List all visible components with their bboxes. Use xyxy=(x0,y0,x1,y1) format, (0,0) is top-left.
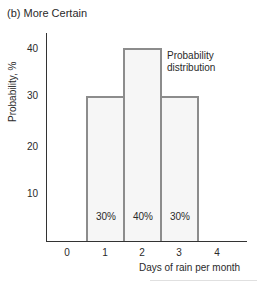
bar-label-2: 40% xyxy=(124,211,162,222)
x-axis xyxy=(46,241,247,242)
y-tick-40: 40 xyxy=(18,43,38,54)
y-axis xyxy=(46,33,47,242)
annotation-line-1: Probability xyxy=(167,50,215,62)
chart-title: (b) More Certain xyxy=(7,7,87,19)
bar-label-1: 30% xyxy=(87,211,125,222)
bottom-divider xyxy=(150,280,257,281)
y-tick-20: 20 xyxy=(18,141,38,152)
y-tick-30: 30 xyxy=(18,90,38,101)
x-tick-0: 0 xyxy=(57,247,77,258)
y-axis-label: Probability, % xyxy=(7,62,18,122)
annotation-line-2: distribution xyxy=(167,62,215,74)
x-tick-3: 3 xyxy=(169,247,189,258)
x-tick-4: 4 xyxy=(207,247,227,258)
x-axis-label: Days of rain per month xyxy=(139,262,240,273)
bar-label-3: 30% xyxy=(161,211,199,222)
y-tick-10: 10 xyxy=(18,188,38,199)
x-tick-1: 1 xyxy=(95,247,115,258)
annotation: Probability distribution xyxy=(167,50,215,74)
x-tick-2: 2 xyxy=(132,247,152,258)
